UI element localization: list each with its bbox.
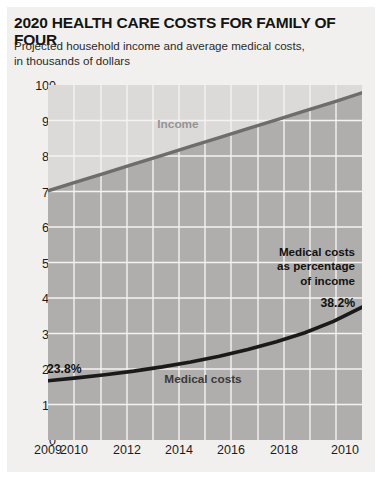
percentage-annotation: Medical costs as percentage of income bbox=[277, 245, 355, 288]
x-tick-2016: 2016 bbox=[214, 444, 248, 457]
x-tick-2012: 2012 bbox=[110, 444, 144, 457]
x-tick-2018: 2018 bbox=[267, 444, 301, 457]
paper-edge-top bbox=[0, 0, 383, 7]
x-tick-2020: 2010 bbox=[328, 444, 362, 457]
paper-edge-right bbox=[375, 0, 383, 480]
paper-edge-bottom bbox=[0, 472, 383, 480]
paper-edge-left bbox=[0, 0, 7, 480]
medical-costs-series-label: Medical costs bbox=[164, 372, 241, 386]
chart-subtitle: Projected household income and average m… bbox=[14, 38, 366, 69]
annotation-line-3: of income bbox=[277, 274, 355, 288]
percentage-start-label: 23.8% bbox=[47, 362, 82, 376]
annotation-line-2: as percentage bbox=[277, 259, 355, 273]
chart-subtitle-line: in thousands of dollars bbox=[14, 53, 366, 68]
x-tick-2010: 2010 bbox=[57, 444, 91, 457]
x-tick-2014: 2014 bbox=[162, 444, 196, 457]
income-series-label: Income bbox=[157, 117, 198, 131]
percentage-end-label: 38.2% bbox=[320, 296, 355, 310]
chart-subtitle-line: Projected household income and average m… bbox=[14, 38, 366, 53]
annotation-line-1: Medical costs bbox=[277, 245, 355, 259]
infographic-chart: 2020 HEALTH CARE COSTS FOR FAMILY OF FOU… bbox=[0, 0, 383, 480]
